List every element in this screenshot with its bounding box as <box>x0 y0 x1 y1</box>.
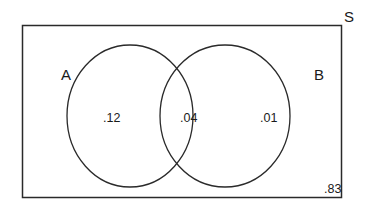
set-a-circle <box>67 45 193 187</box>
a-only-value: .12 <box>103 111 120 125</box>
set-b-label: B <box>314 66 324 83</box>
set-a-label: A <box>61 66 71 83</box>
venn-diagram: S A B .12 .04 .01 .83 <box>0 0 384 221</box>
universe-outside-value: .83 <box>324 182 341 196</box>
universe-label: S <box>344 8 354 25</box>
intersection-value: .04 <box>180 111 197 125</box>
b-only-value: .01 <box>260 111 277 125</box>
